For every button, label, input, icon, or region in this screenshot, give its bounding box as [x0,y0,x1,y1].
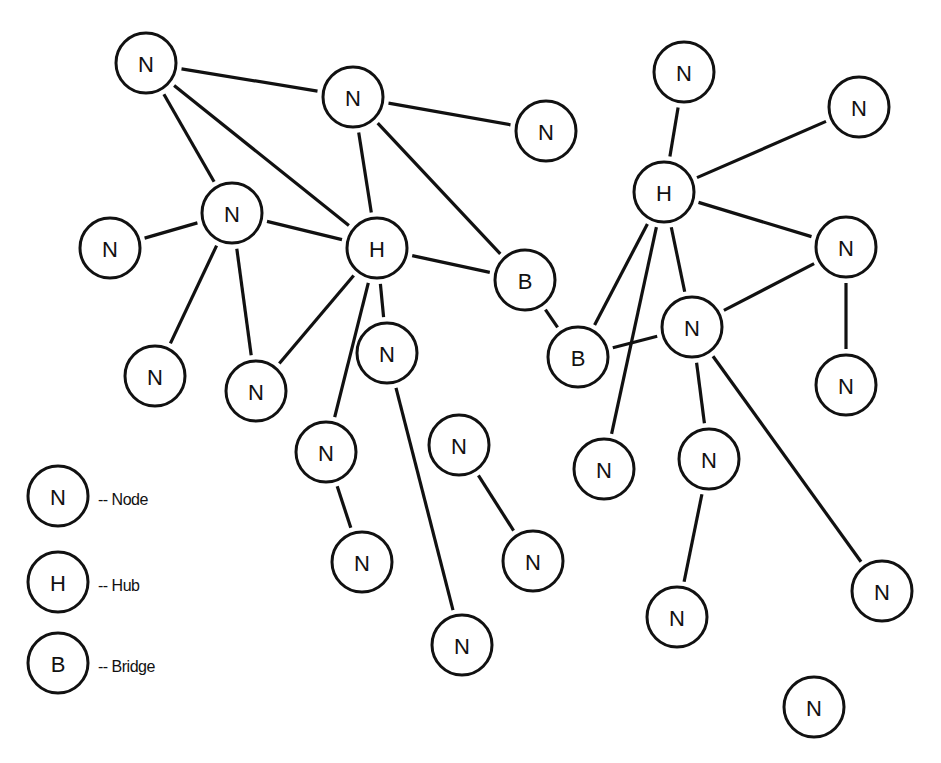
legend-symbol-h: H [28,552,88,612]
node-label: N [851,96,867,121]
node-label: N [138,52,154,77]
node-n12: N [296,422,356,482]
node-label: H [50,571,66,596]
node-label: N [102,237,118,262]
node-label: N [596,458,612,483]
edge-n4-n5 [145,223,198,238]
node-label: N [379,342,395,367]
node-label: N [676,61,692,86]
edge-r5-r8 [697,363,705,424]
edge-h1-n10 [380,284,383,317]
hub-h1: H [347,218,407,278]
node-label: B [518,269,533,294]
node-label: N [838,236,854,261]
node-r8: N [679,429,739,489]
node-r1: N [654,42,714,102]
edge-h2-r5 [671,227,684,292]
node-label: N [538,120,554,145]
node-label: N [806,696,822,721]
node-label: H [369,237,385,262]
node-label: N [525,550,541,575]
node-n16: N [432,615,492,675]
node-r5: N [662,297,722,357]
node-n8: N [125,346,185,406]
node-r4: N [816,217,876,277]
node-label: N [318,441,334,466]
edge-h2-r2 [697,121,826,177]
node-label: N [454,634,470,659]
bridge-b2: B [548,327,608,387]
legend-symbol-n: N [28,466,88,526]
legend-label: -- Hub [98,577,140,594]
node-r11: N [784,677,844,737]
node-n13: N [332,532,392,592]
node-n1: N [116,33,176,93]
node-label: N [224,202,240,227]
edge-n2-n3 [389,103,511,125]
node-n2: N [323,67,383,127]
node-label: B [51,652,66,677]
edge-r1-h2 [670,108,678,157]
node-label: N [838,374,854,399]
legend-symbol-b: B [28,633,88,693]
edge-b1-b2 [545,310,557,328]
node-n15: N [503,531,563,591]
edge-n1-n2 [182,69,318,91]
node-label: N [248,380,264,405]
node-n4: N [202,183,262,243]
node-r9: N [647,587,707,647]
edge-h2-r4 [699,202,812,236]
edge-h2-r7 [612,227,657,434]
edge-n4-n8 [170,246,216,344]
node-label: N [354,551,370,576]
edge-n14-n15 [478,475,513,530]
node-r7: N [574,439,634,499]
edge-n12-n13 [337,486,351,528]
node-label: N [669,606,685,631]
node-n5: N [80,218,140,278]
node-label: B [571,346,586,371]
node-label: N [874,580,890,605]
node-label: N [684,316,700,341]
edge-r5-r4 [724,264,814,311]
legend: N-- NodeH-- HubB-- Bridge [28,466,155,693]
edge-h1-n9 [279,276,353,364]
edge-h1-b1 [412,256,490,273]
node-label: H [656,181,672,206]
node-label: N [451,434,467,459]
node-label: N [701,448,717,473]
node-label: N [50,485,66,510]
edges-layer [145,69,861,610]
edge-n1-n4 [164,94,214,182]
legend-label: -- Bridge [98,658,155,675]
edge-r8-r9 [684,494,702,581]
node-label: N [345,86,361,111]
bridge-b1: B [495,250,555,310]
node-n9: N [226,361,286,421]
node-n10: N [357,323,417,383]
node-label: N [147,365,163,390]
node-r10: N [852,561,912,621]
node-r6: N [816,355,876,415]
edge-b2-r5 [613,336,657,348]
node-n3: N [516,101,576,161]
node-r2: N [829,77,889,137]
edge-n4-n9 [237,249,251,356]
edge-n2-h1 [359,133,372,213]
hub-h2: H [634,162,694,222]
legend-label: -- Node [98,491,148,508]
network-diagram: NNNNNHBNNNBNNNNNNNHNNNNNNNN N-- NodeH-- … [0,0,941,763]
node-n14: N [429,415,489,475]
edge-n4-h1 [267,221,342,239]
